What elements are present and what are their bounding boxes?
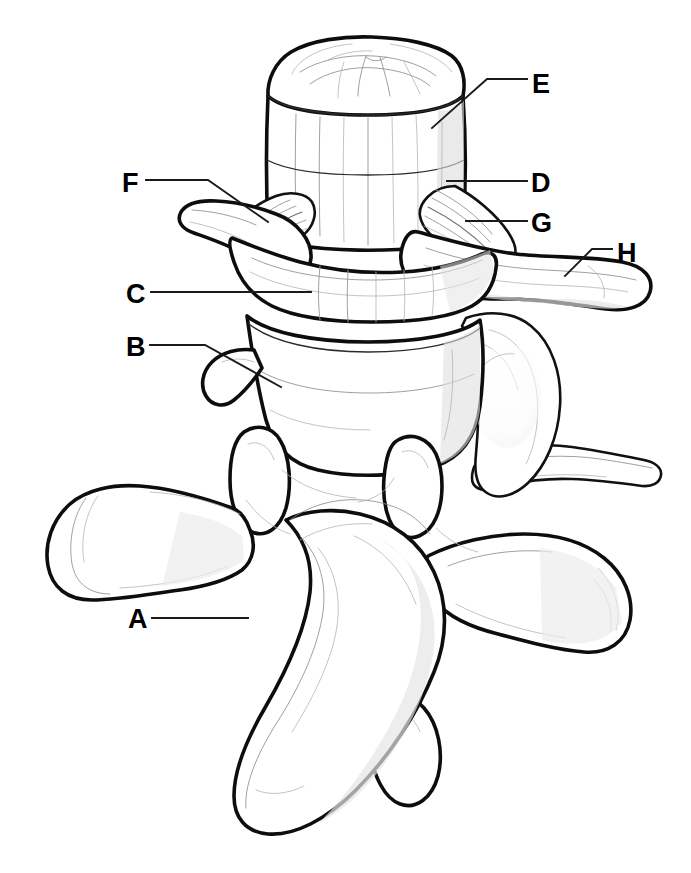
label-A[interactable]: A xyxy=(128,604,148,634)
label-B[interactable]: B xyxy=(126,332,146,362)
label-D[interactable]: D xyxy=(531,168,551,198)
anatomy-figure: A B C D E F G H xyxy=(0,0,691,873)
label-E[interactable]: E xyxy=(532,69,550,99)
anatomy-illustration: A B C D E F G H xyxy=(0,0,691,873)
label-G[interactable]: G xyxy=(531,208,552,238)
label-H[interactable]: H xyxy=(617,238,637,268)
label-C[interactable]: C xyxy=(126,279,146,309)
label-F[interactable]: F xyxy=(122,168,139,198)
